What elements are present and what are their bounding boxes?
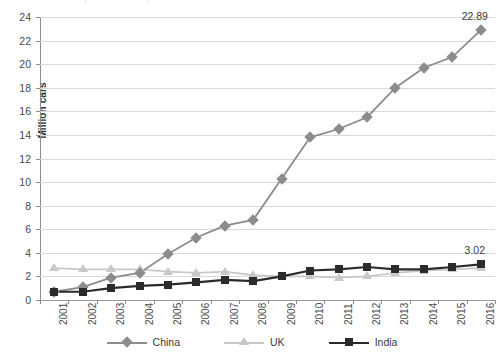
data-point-india-2014 [420,265,428,273]
x-tick-label-2014: 2014 [428,303,439,325]
x-tick-label-2008: 2008 [257,303,268,325]
legend-label-uk: UK [270,336,285,348]
data-point-india-2012 [363,263,371,271]
triangle-marker [224,336,264,348]
data-point-india-2002 [79,288,87,296]
data-point-uk-2005 [163,267,173,275]
x-tick-label-2010: 2010 [314,303,325,325]
legend-label-india: India [375,336,398,348]
x-tick-label-2013: 2013 [399,303,410,325]
y-tick-label-10: 10 [9,176,31,188]
y-tick-label-6: 6 [9,223,31,235]
x-tick-label-2016: 2016 [485,303,496,325]
data-point-uk-2012 [362,271,372,279]
data-point-uk-2001 [49,263,59,271]
data-point-india-2009 [278,272,286,280]
y-tick-label-22: 22 [9,35,31,47]
x-tick-label-2002: 2002 [87,303,98,325]
data-point-uk-2007 [220,267,230,275]
data-point-india-2001 [50,288,58,296]
x-tick-label-2004: 2004 [144,303,155,325]
x-tick-label-2007: 2007 [229,303,240,325]
x-axis: 2001200220032004200520062007200820092010… [40,300,495,328]
x-tick-label-2001: 2001 [58,303,69,325]
x-tick-label-2009: 2009 [286,303,297,325]
y-tick-label-18: 18 [9,82,31,94]
y-tick-label-4: 4 [9,247,31,259]
y-tick-label-12: 12 [9,153,31,165]
x-tick-boundary [40,300,41,304]
data-point-india-2003 [107,284,115,292]
y-tick-label-16: 16 [9,105,31,117]
line-chart: Chinese car production compared with the… [0,0,504,357]
y-tick-label-8: 8 [9,200,31,212]
chart-title-clipped: Chinese car production compared with the… [34,0,464,6]
data-point-india-2013 [391,265,399,273]
legend-item-india[interactable]: India [329,336,398,348]
data-point-india-2005 [164,281,172,289]
series-line-china [54,30,481,292]
data-point-india-2008 [249,277,257,285]
chart-legend: ChinaUKIndia [0,330,504,354]
data-point-uk-2002 [78,264,88,272]
legend-label-china: China [153,336,180,348]
legend-item-uk[interactable]: UK [224,336,285,348]
x-tick-label-2011: 2011 [343,303,354,325]
data-point-india-2004 [136,282,144,290]
legend-item-china[interactable]: China [107,336,180,348]
series-lines [40,17,495,300]
data-point-india-2006 [192,278,200,286]
china-2016-value-label: 22.89 [462,10,488,22]
data-point-india-2015 [448,263,456,271]
y-tick-label-14: 14 [9,129,31,141]
y-axis-tick-labels: 024681012141618202224 [9,0,31,357]
y-tick-label-2: 2 [9,270,31,282]
india-2016-value-label: 3.02 [465,244,485,256]
data-point-uk-2011 [334,273,344,281]
x-tick-label-2012: 2012 [371,303,382,325]
data-point-india-2011 [335,265,343,273]
data-point-uk-2003 [106,264,116,272]
y-tick-label-0: 0 [9,294,31,306]
x-tick-label-2006: 2006 [200,303,211,325]
data-point-india-2016 [477,260,485,268]
data-point-uk-2006 [191,268,201,276]
diamond-marker [107,336,147,348]
square-marker [329,336,369,348]
x-tick-label-2015: 2015 [456,303,467,325]
data-point-india-2010 [306,267,314,275]
plot-area: 22.893.02 [40,17,495,300]
y-tick-label-20: 20 [9,58,31,70]
x-tick-label-2005: 2005 [172,303,183,325]
data-point-india-2007 [221,276,229,284]
x-tick-label-2003: 2003 [115,303,126,325]
y-tick-label-24: 24 [9,11,31,23]
